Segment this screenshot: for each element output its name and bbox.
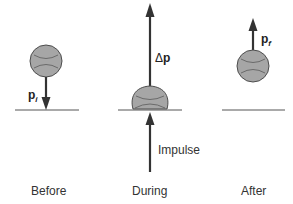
impulse-label: Impulse [158, 143, 200, 157]
delta-symbol: Δ [155, 51, 163, 65]
momentum-initial-label: pi [28, 88, 38, 104]
ball-icon [30, 45, 62, 77]
after-panel [222, 18, 285, 110]
caption-before: Before [31, 184, 66, 198]
momentum-final-label: pf [261, 32, 271, 48]
impulse-arrow [146, 112, 155, 172]
subscript: f [268, 39, 271, 48]
ball-icon [237, 50, 269, 82]
momentum-final-arrow [249, 18, 258, 50]
delta-p-arrow [146, 3, 155, 88]
ball-squashed-icon [132, 86, 168, 109]
symbol: p [163, 51, 170, 65]
before-panel [15, 45, 79, 110]
impulse-diagram [0, 0, 293, 204]
caption-after: After [241, 184, 266, 198]
delta-p-label: Δp [155, 51, 170, 65]
caption-during: During [132, 184, 167, 198]
subscript: i [35, 95, 37, 104]
momentum-initial-arrow [42, 77, 51, 110]
